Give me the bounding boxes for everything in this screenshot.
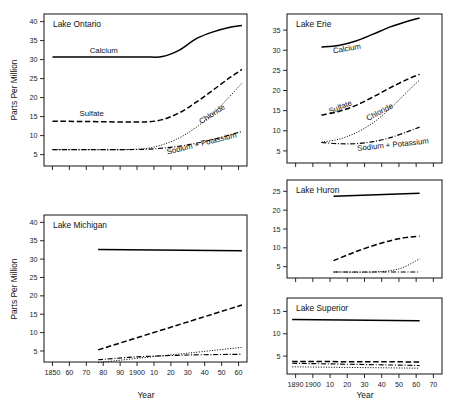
x-tick-label: 10: [326, 380, 334, 389]
x-tick-label: 1900: [129, 368, 145, 377]
y-tick-label: 10: [273, 243, 281, 252]
y-tick-label: 10: [273, 329, 281, 338]
x-tick-label: 20: [167, 368, 175, 377]
y-tick-label: 15: [273, 307, 281, 316]
y-tick-label: 5: [277, 262, 281, 271]
y-tick-label: 5: [277, 352, 281, 361]
y-tick-label: 10: [273, 126, 281, 135]
x-tick-label: 60: [412, 380, 420, 389]
x-tick-label: 90: [116, 368, 124, 377]
x-tick-label: 60: [65, 368, 73, 377]
panel-title: Lake Huron: [296, 185, 340, 195]
x-tick-label: 30: [184, 368, 192, 377]
x-tick-label: 1900: [305, 380, 321, 389]
y-tick-label: 5: [34, 347, 38, 356]
x-axis-title-right: Year: [357, 390, 374, 400]
x-axis-title-left: Year: [138, 390, 155, 400]
x-tick-label: 20: [343, 380, 351, 389]
y-tick-label: 25: [30, 273, 38, 282]
x-tick-label: 40: [378, 380, 386, 389]
y-tick-label: 15: [273, 106, 281, 115]
y-tick-label: 25: [30, 74, 38, 83]
y-tick-label: 5: [34, 150, 38, 159]
panel-title: Lake Michigan: [53, 220, 107, 230]
y-tick-label: 20: [30, 93, 38, 102]
y-tick-label: 30: [30, 255, 38, 264]
y-axis-title-ontario: Parts Per Million: [9, 59, 19, 120]
y-tick-label: 25: [273, 187, 281, 196]
y-tick-label: 20: [30, 291, 38, 300]
y-tick-label: 15: [273, 225, 281, 234]
y-tick-label: 35: [30, 236, 38, 245]
y-tick-label: 35: [30, 36, 38, 45]
y-tick-label: 20: [273, 206, 281, 215]
y-tick-label: 15: [30, 310, 38, 319]
series-label: Sulfate: [80, 109, 104, 118]
y-tick-label: 30: [30, 55, 38, 64]
x-tick-label: 70: [82, 368, 90, 377]
y-tick-label: 10: [30, 131, 38, 140]
y-tick-label: 35: [273, 26, 281, 35]
x-tick-label: 30: [361, 380, 369, 389]
series-label: Calcium: [90, 46, 118, 55]
x-tick-label: 60: [235, 368, 243, 377]
y-tick-label: 5: [277, 147, 281, 156]
y-tick-label: 25: [273, 66, 281, 75]
figure-background: [0, 0, 456, 418]
x-tick-label: 10: [150, 368, 158, 377]
x-tick-label: 50: [395, 380, 403, 389]
y-tick-label: 30: [273, 46, 281, 55]
x-tick-label: 80: [99, 368, 107, 377]
y-axis-title-michigan: Parts Per Million: [9, 258, 19, 319]
panel-title: Lake Superior: [296, 303, 348, 313]
x-tick-label: 1850: [44, 368, 60, 377]
y-tick-label: 40: [30, 17, 38, 26]
x-tick-label: 40: [201, 368, 209, 377]
y-tick-label: 20: [273, 86, 281, 95]
x-tick-label: 1890: [288, 380, 304, 389]
y-tick-label: 10: [30, 328, 38, 337]
great-lakes-chemistry-figure: 510152025303540Lake OntarioCalciumSulfat…: [0, 0, 456, 418]
x-tick-label: 50: [218, 368, 226, 377]
panel-title: Lake Ontario: [53, 19, 101, 29]
y-tick-label: 40: [30, 218, 38, 227]
panel-title: Lake Erie: [296, 19, 332, 29]
y-tick-label: 15: [30, 112, 38, 121]
x-tick-label: 70: [429, 380, 437, 389]
